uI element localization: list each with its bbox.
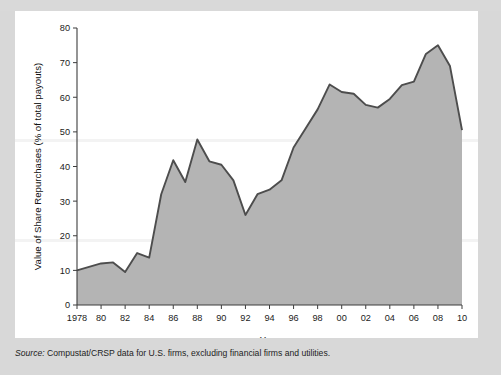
chart-panel: 0102030405060708019788082848688909294969… xyxy=(15,11,478,338)
y-tick-label: 60 xyxy=(60,93,70,103)
x-tick-label: 84 xyxy=(144,313,154,323)
x-axis-title: Year xyxy=(260,334,280,338)
y-tick-label: 40 xyxy=(60,162,70,172)
x-tick-label: 86 xyxy=(168,313,178,323)
y-tick-label: 30 xyxy=(60,197,70,207)
x-tick-label: 02 xyxy=(361,313,371,323)
x-tick-label: 90 xyxy=(216,313,226,323)
y-axis-title: Value of Share Repurchases (% of total p… xyxy=(32,63,43,270)
page-top-margin xyxy=(0,0,501,11)
x-tick-label: 04 xyxy=(385,313,395,323)
x-tick-label: 98 xyxy=(313,313,323,323)
source-note: Source: Compustat/CRSP data for U.S. fir… xyxy=(15,348,485,368)
y-tick-label: 50 xyxy=(60,127,70,137)
y-tick-label: 0 xyxy=(65,300,70,310)
y-tick-label: 80 xyxy=(60,23,70,33)
x-tick-label: 08 xyxy=(433,313,443,323)
area-chart: 0102030405060708019788082848688909294969… xyxy=(15,11,478,338)
y-tick-label: 10 xyxy=(60,266,70,276)
x-tick-label: 06 xyxy=(409,313,419,323)
x-tick-label: 94 xyxy=(264,313,274,323)
x-tick-label: 80 xyxy=(96,313,106,323)
y-tick-label: 20 xyxy=(60,231,70,241)
x-tick-label: 82 xyxy=(120,313,130,323)
x-tick-label: 92 xyxy=(240,313,250,323)
x-tick-label: 96 xyxy=(288,313,298,323)
x-tick-label: 88 xyxy=(192,313,202,323)
source-text: Compustat/CRSP data for U.S. firms, excl… xyxy=(45,348,330,358)
x-tick-label: 10 xyxy=(457,313,467,323)
y-tick-label: 70 xyxy=(60,58,70,68)
x-tick-label: 1978 xyxy=(67,313,87,323)
source-label: Source: xyxy=(15,348,45,358)
x-tick-label: 00 xyxy=(337,313,347,323)
